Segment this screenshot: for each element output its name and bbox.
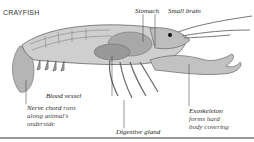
nerve-chord-line2: along animal's [27, 112, 68, 120]
nerve-chord-term: Nerve chord [27, 104, 62, 112]
exoskeleton-line3: body covering [189, 123, 229, 131]
label-blood-vessel: Blood vessel [46, 92, 81, 100]
label-nerve-chord: Nerve chord runs along animal's undersid… [27, 104, 76, 128]
label-small-brain: Small brain [168, 7, 201, 15]
label-digestive-gland: Digestive gland [116, 128, 160, 136]
claw [150, 54, 241, 75]
label-exoskeleton: Exoskeleton forms hard body covering [189, 107, 229, 131]
exoskeleton-line2: forms hard [189, 115, 220, 123]
bottom-divider [0, 137, 254, 139]
nerve-chord-line3: underside [27, 120, 55, 128]
exoskeleton-term: Exoskeleton [189, 107, 223, 115]
label-stomach: Stomach [135, 7, 159, 15]
nerve-chord-rest: runs [62, 104, 76, 112]
eye [168, 33, 172, 37]
